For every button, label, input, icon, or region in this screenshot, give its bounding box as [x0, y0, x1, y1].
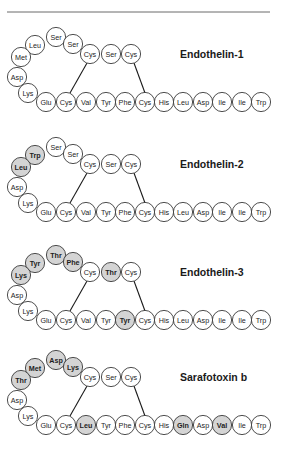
- peptide-structure-figure: SerLeuMetAspLysGluSerCysSerCysCysValTyrP…: [0, 0, 286, 454]
- residue-label: Cys: [139, 421, 152, 430]
- residue-cys: Cys: [121, 262, 140, 281]
- residue-label: Cys: [84, 373, 97, 382]
- residue-label: Thr: [50, 251, 62, 260]
- residue-asp: Asp: [193, 92, 212, 111]
- residue-asp: Asp: [193, 202, 212, 221]
- residue-tyr: Tyr: [115, 310, 134, 329]
- residue-ile: Ile: [232, 415, 251, 434]
- residue-leu: Leu: [173, 202, 192, 221]
- residue-ser: Ser: [101, 367, 120, 386]
- peptide-diagrams: SerLeuMetAspLysGluSerCysSerCysCysValTyrP…: [7, 27, 270, 434]
- disulfide-bond: [134, 386, 145, 416]
- residue-label: Cys: [60, 316, 73, 325]
- residue-ile: Ile: [212, 310, 231, 329]
- residue-label: Ser: [67, 150, 79, 159]
- residue-tyr: Tyr: [96, 92, 115, 111]
- residue-asp: Asp: [46, 350, 65, 369]
- peptide-title: Endothelin-3: [180, 266, 244, 278]
- residue-label: Val: [81, 316, 91, 325]
- residue-label: Cys: [84, 50, 97, 59]
- residue-label: Tyr: [101, 316, 112, 325]
- residue-label: Ser: [105, 373, 117, 382]
- residue-label: Thr: [105, 268, 117, 277]
- residue-phe: Phe: [115, 415, 134, 434]
- residue-his: His: [154, 202, 173, 221]
- peptide-diagram-endothelin-1: SerLeuMetAspLysGluSerCysSerCysCysValTyrP…: [7, 27, 270, 111]
- residue-ser: Ser: [46, 27, 65, 46]
- peptide-title: Endothelin-1: [180, 48, 244, 60]
- residue-ile: Ile: [212, 202, 231, 221]
- residue-label: Ser: [105, 50, 117, 59]
- residue-label: Cys: [125, 50, 138, 59]
- disulfide-bond: [134, 281, 145, 311]
- residue-val: Val: [76, 92, 95, 111]
- residue-label: Tyr: [101, 208, 112, 217]
- residue-his: His: [154, 415, 173, 434]
- residue-val: Val: [76, 310, 95, 329]
- residue-label: Cys: [84, 268, 97, 277]
- residue-ile: Ile: [232, 310, 251, 329]
- residue-leu: Leu: [173, 310, 192, 329]
- residue-asp: Asp: [7, 177, 26, 196]
- residue-label: Ile: [238, 421, 246, 430]
- residue-label: Cys: [125, 160, 138, 169]
- residue-label: Tyr: [120, 316, 131, 325]
- residue-label: Val: [217, 421, 227, 430]
- residue-phe: Phe: [63, 252, 82, 271]
- residue-label: Leu: [177, 316, 189, 325]
- residue-label: Cys: [125, 373, 138, 382]
- residue-met: Met: [11, 47, 30, 66]
- residue-label: Phe: [66, 258, 79, 267]
- residue-lys: Lys: [11, 265, 30, 284]
- residue-his: His: [154, 92, 173, 111]
- residue-label: Leu: [80, 421, 93, 430]
- residue-label: Ile: [238, 98, 246, 107]
- residue-cys: Cys: [80, 262, 99, 281]
- residue-label: Glu: [40, 421, 51, 430]
- residue-cys: Cys: [121, 154, 140, 173]
- residue-cys: Cys: [135, 310, 154, 329]
- residue-label: Ile: [218, 208, 226, 217]
- residue-label: Asp: [49, 356, 63, 365]
- disulfide-bond: [134, 63, 145, 93]
- residue-cys: Cys: [56, 415, 75, 434]
- residue-tyr: Tyr: [96, 202, 115, 221]
- residue-label: Cys: [125, 268, 138, 277]
- residue-cys: Cys: [56, 310, 75, 329]
- residue-cys: Cys: [80, 44, 99, 63]
- residue-label: Trp: [29, 151, 41, 160]
- residue-label: Ile: [218, 316, 226, 325]
- residue-label: Val: [81, 98, 91, 107]
- residue-label: His: [159, 208, 170, 217]
- residue-glu: Glu: [36, 415, 55, 434]
- residue-label: Lys: [67, 363, 79, 372]
- residue-asp: Asp: [7, 285, 26, 304]
- residue-label: Ile: [238, 208, 246, 217]
- residue-asp: Asp: [7, 67, 26, 86]
- residue-gln: Gln: [173, 415, 192, 434]
- residue-glu: Glu: [36, 92, 55, 111]
- residue-ser: Ser: [101, 44, 120, 63]
- residue-label: Trp: [256, 98, 267, 107]
- residue-his: His: [154, 310, 173, 329]
- residue-trp: Trp: [251, 202, 270, 221]
- residue-ser: Ser: [63, 34, 82, 53]
- residue-tyr: Tyr: [96, 310, 115, 329]
- residue-label: Thr: [15, 376, 27, 385]
- residue-label: Trp: [256, 208, 267, 217]
- residue-label: Cys: [60, 208, 73, 217]
- residue-ser: Ser: [46, 137, 65, 156]
- residue-val: Val: [212, 415, 231, 434]
- residue-cys: Cys: [56, 202, 75, 221]
- disulfide-bond: [134, 173, 145, 203]
- residue-leu: Leu: [76, 415, 95, 434]
- residue-phe: Phe: [115, 202, 134, 221]
- residue-label: Ser: [50, 33, 62, 42]
- residue-label: Met: [15, 53, 27, 62]
- residue-thr: Thr: [101, 262, 120, 281]
- residue-asp: Asp: [7, 390, 26, 409]
- residue-label: Ser: [67, 40, 79, 49]
- residue-label: Cys: [139, 98, 152, 107]
- residue-trp: Trp: [251, 92, 270, 111]
- residue-cys: Cys: [135, 92, 154, 111]
